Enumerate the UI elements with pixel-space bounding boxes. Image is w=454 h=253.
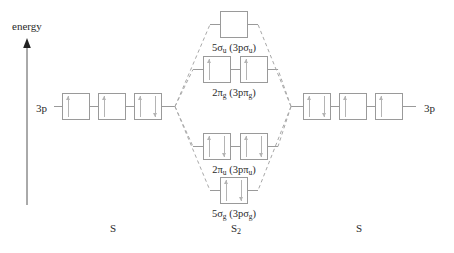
mo-5sigma-u-box-1 <box>220 11 248 38</box>
electron-arrow-down <box>224 136 225 157</box>
species-mo: S2 <box>231 222 241 236</box>
electron-arrow-up <box>309 96 310 117</box>
electron-arrow-down <box>324 96 325 117</box>
electron-arrow-up <box>246 136 247 157</box>
mo-2pi-g-box-2 <box>240 56 268 83</box>
ao-right-1 <box>303 93 331 120</box>
dashed-left <box>175 25 210 191</box>
atomic-label-left: 3p <box>36 102 47 114</box>
species-left: S <box>110 222 116 234</box>
electron-arrow-down <box>261 136 262 157</box>
mo-5sigma-g-label: 5σg (3pσg) <box>212 209 256 220</box>
electron-arrow-up <box>226 180 227 201</box>
electron-arrow-up <box>209 136 210 157</box>
mo-5sigma-g-box-1 <box>220 177 248 204</box>
electron-arrow-down <box>241 180 242 201</box>
electron-arrow-down <box>155 96 156 117</box>
ao-left-1 <box>62 93 90 120</box>
electron-arrow-up <box>209 59 210 80</box>
electron-arrow-up <box>104 96 105 117</box>
energy-axis-label: energy <box>12 20 42 32</box>
electron-arrow-up <box>345 96 346 117</box>
mo-diagram-canvas: energy 3p3p5σu (3pσu)2πg (3pπg)2πu (3pπu… <box>0 0 454 253</box>
atomic-label-right: 3p <box>424 102 435 114</box>
mo-2pi-u-label: 2πu (3pπu) <box>212 165 256 176</box>
electron-arrow-up <box>68 96 69 117</box>
ao-left-2 <box>98 93 126 120</box>
electron-arrow-up <box>381 96 382 117</box>
ao-right-3 <box>375 93 403 120</box>
electron-arrow-up <box>140 96 141 117</box>
mo-2pi-u-box-2 <box>240 133 268 160</box>
species-right: S <box>356 222 362 234</box>
ao-left-3 <box>134 93 162 120</box>
mo-2pi-u-box-1 <box>203 133 231 160</box>
dashed-right <box>258 25 291 191</box>
electron-arrow-up <box>246 59 247 80</box>
mo-5sigma-u-label: 5σu (3pσu) <box>212 43 256 54</box>
ao-right-2 <box>339 93 367 120</box>
mo-2pi-g-box-1 <box>203 56 231 83</box>
energy-axis <box>23 38 31 205</box>
mo-2pi-g-label: 2πg (3pπg) <box>212 88 256 99</box>
